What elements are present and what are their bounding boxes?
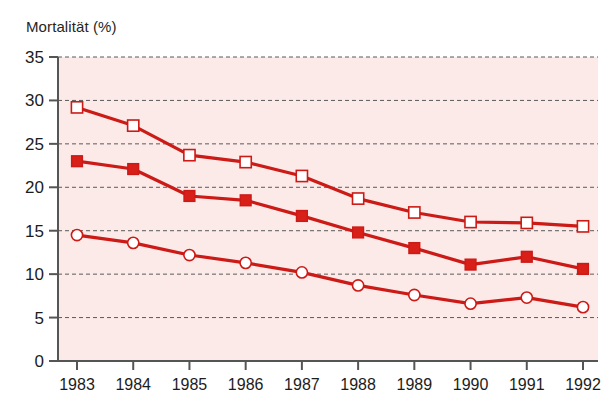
- y-tick-label: 10: [25, 265, 44, 284]
- data-point: [296, 267, 307, 278]
- data-point: [465, 298, 476, 309]
- data-point: [184, 249, 195, 260]
- data-point: [578, 264, 589, 275]
- y-tick-label: 25: [25, 135, 44, 154]
- y-tick-label: 30: [25, 91, 44, 110]
- data-point: [465, 216, 476, 227]
- y-axis-ticks: 05101520253035: [25, 48, 58, 371]
- y-tick-label: 0: [35, 352, 44, 371]
- data-point: [71, 229, 82, 240]
- data-point: [409, 243, 420, 254]
- x-tick-label: 1989: [397, 376, 433, 393]
- data-point: [521, 251, 532, 262]
- x-tick-label: 1985: [172, 376, 208, 393]
- data-point: [296, 170, 307, 181]
- data-point: [409, 207, 420, 218]
- x-tick-label: 1987: [284, 376, 320, 393]
- x-tick-label: 1990: [453, 376, 489, 393]
- mortality-line-chart: Mortalität (%) 05101520253035 1983198419…: [0, 0, 616, 406]
- plot-background: [58, 57, 598, 361]
- y-tick-label: 5: [35, 309, 44, 328]
- data-point: [240, 156, 251, 167]
- x-tick-label: 1991: [509, 376, 545, 393]
- data-point: [71, 102, 82, 113]
- x-axis-ticks: 1983198419851986198719881989199019911992: [59, 361, 601, 393]
- data-point: [184, 191, 195, 202]
- data-point: [353, 280, 364, 291]
- y-tick-label: 35: [25, 48, 44, 67]
- data-point: [128, 164, 139, 175]
- x-tick-label: 1983: [59, 376, 95, 393]
- data-point: [184, 150, 195, 161]
- data-point: [240, 257, 251, 268]
- x-tick-label: 1986: [228, 376, 264, 393]
- data-point: [72, 156, 83, 167]
- data-point: [577, 302, 588, 313]
- x-tick-label: 1988: [340, 376, 376, 393]
- x-tick-label: 1992: [565, 376, 601, 393]
- data-point: [128, 237, 139, 248]
- data-point: [521, 217, 532, 228]
- data-point: [296, 211, 307, 222]
- data-point: [409, 289, 420, 300]
- y-tick-label: 15: [25, 222, 44, 241]
- data-point: [521, 292, 532, 303]
- data-point: [353, 227, 364, 238]
- plot-area: 05101520253035 1983198419851986198719881…: [0, 0, 616, 406]
- x-tick-label: 1984: [115, 376, 151, 393]
- data-point: [465, 259, 476, 270]
- data-point: [353, 193, 364, 204]
- y-tick-label: 20: [25, 178, 44, 197]
- data-point: [240, 195, 251, 206]
- data-point: [577, 221, 588, 232]
- data-point: [128, 120, 139, 131]
